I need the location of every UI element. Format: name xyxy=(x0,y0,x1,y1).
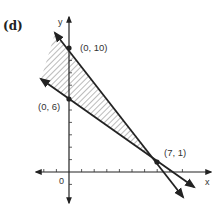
point-label-0-10: (0, 10) xyxy=(80,42,107,53)
panel-label: (d) xyxy=(3,19,23,33)
point-0-10 xyxy=(66,45,71,50)
point-0-6 xyxy=(66,96,71,101)
line-lower xyxy=(41,79,194,187)
graph-diagram: (d) y x 0 (0, 10) (0, 6) (7, 1) xyxy=(0,0,218,222)
origin-label: 0 xyxy=(59,176,64,186)
point-label-7-1: (7, 1) xyxy=(164,147,186,158)
y-axis-label: y xyxy=(58,17,63,27)
point-7-1 xyxy=(154,159,159,164)
x-axis-label: x xyxy=(205,177,210,187)
point-label-0-6: (0, 6) xyxy=(38,101,60,112)
